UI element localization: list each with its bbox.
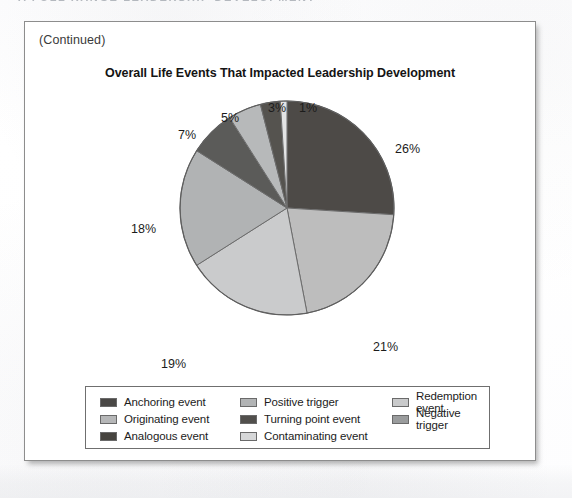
chart-title: Overall Life Events That Impacted Leader… [25,66,535,80]
legend-item-label: Turning point event [264,414,360,426]
legend-item-label: Positive trigger [264,397,338,409]
legend-item[interactable]: Analogous event [100,431,240,443]
legend-item-label: Negative trigger [416,408,489,431]
pie-label-21: 21% [373,340,398,354]
pie-chart-svg [179,100,395,316]
chart-legend: Anchoring eventPositive triggerRedemptio… [85,386,490,449]
pie-label-26: 26% [395,142,420,156]
pie-slice-group [180,101,394,315]
legend-swatch-icon [100,432,117,441]
legend-item[interactable]: Positive trigger [240,397,392,409]
legend-item-label: Analogous event [124,431,208,443]
legend-item[interactable]: Anchoring event [100,397,240,409]
continued-label: (Continued) [39,33,105,47]
legend-swatch-icon [240,415,257,424]
page-bottom-smudge [0,464,572,498]
legend-swatch-icon [392,398,409,407]
running-head: A FULL RANGE LEADERSHIP DEVELOPMENT [18,0,348,8]
legend-grid: Anchoring eventPositive triggerRedemptio… [100,394,489,445]
pie-label-7: 7% [178,128,196,142]
legend-item[interactable]: Turning point event [240,414,392,426]
running-head-text: A FULL RANGE LEADERSHIP DEVELOPMENT [18,0,348,3]
pie-label-1: 1% [299,101,317,115]
pie-label-3: 3% [268,101,286,115]
legend-swatch-icon [100,398,117,407]
pie-label-19: 19% [161,357,186,371]
legend-swatch-icon [392,415,409,424]
legend-item-label: Originating event [124,414,209,426]
legend-swatch-icon [240,398,257,407]
legend-swatch-icon [100,415,117,424]
pie-chart [179,100,395,316]
legend-item-label: Contaminating event [264,431,368,443]
legend-item[interactable]: Negative trigger [392,408,489,431]
pie-label-5: 5% [221,111,239,125]
legend-item-label: Anchoring event [124,397,206,409]
legend-swatch-icon [240,432,257,441]
figure-container: (Continued) Overall Life Events That Imp… [24,21,536,461]
pie-label-18: 18% [131,222,156,236]
legend-item[interactable]: Originating event [100,414,240,426]
pie-slice-26 [287,101,394,215]
legend-item[interactable]: Contaminating event [240,431,392,443]
